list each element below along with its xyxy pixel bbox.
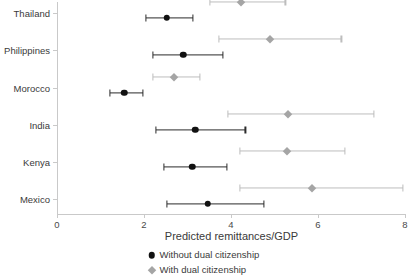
data-point-with-dual-citizenship <box>266 35 274 43</box>
interval-end-cap <box>227 111 228 118</box>
circle-marker-icon <box>144 248 160 261</box>
category-tick-mark <box>53 13 57 14</box>
dot-whisker-chart: 02468 ThailandPhilippinesMoroccoIndiaKen… <box>0 0 415 278</box>
data-point-without-dual-citizenship <box>163 15 170 22</box>
data-point-without-dual-citizenship <box>192 127 199 134</box>
legend-label: Without dual citizenship <box>160 249 260 260</box>
confidence-interval-bar <box>167 203 264 204</box>
interval-end-cap <box>245 126 246 133</box>
confidence-interval-bar <box>219 38 342 39</box>
legend-item-with-dual-citizenship: With dual citizenship <box>144 263 272 276</box>
category-label-philippines: Philippines <box>0 45 50 56</box>
data-point-with-dual-citizenship <box>170 73 178 81</box>
category-tick-mark <box>53 88 57 89</box>
data-point-without-dual-citizenship <box>204 201 211 208</box>
interval-end-cap <box>156 126 157 133</box>
data-point-with-dual-citizenship <box>237 0 245 6</box>
confidence-interval-bar <box>228 113 374 114</box>
data-point-without-dual-citizenship <box>189 164 196 171</box>
interval-end-cap <box>285 0 286 6</box>
legend-label: With dual citizenship <box>160 264 247 275</box>
interval-end-cap <box>200 74 201 81</box>
data-point-with-dual-citizenship <box>283 147 291 155</box>
legend-item-without-dual-citizenship: Without dual citizenship <box>144 248 272 261</box>
x-tick-mark <box>318 214 319 218</box>
interval-end-cap <box>240 148 241 155</box>
interval-end-cap <box>166 200 167 207</box>
confidence-interval-bar <box>240 150 344 151</box>
interval-end-cap <box>226 163 227 170</box>
y-axis-line <box>57 2 58 214</box>
x-tick-mark <box>231 214 232 218</box>
category-tick-mark <box>53 199 57 200</box>
interval-end-cap <box>222 51 223 58</box>
x-tick-mark <box>144 214 145 218</box>
interval-end-cap <box>402 185 403 192</box>
interval-end-cap <box>218 36 219 43</box>
x-axis-title: Predicted remittances/GDP <box>57 230 406 242</box>
confidence-interval-bar <box>156 129 245 130</box>
interval-end-cap <box>341 36 342 43</box>
diamond-marker-icon <box>144 263 160 276</box>
x-tick-label: 6 <box>315 219 320 230</box>
interval-end-cap <box>163 163 164 170</box>
category-label-mexico: Mexico <box>0 194 50 205</box>
confidence-interval-bar <box>210 1 286 2</box>
interval-end-cap <box>193 14 194 21</box>
x-tick-mark <box>405 214 406 218</box>
data-point-without-dual-citizenship <box>121 90 128 97</box>
confidence-interval-bar <box>240 187 403 188</box>
category-label-thailand: Thailand <box>0 8 50 19</box>
interval-end-cap <box>143 89 144 96</box>
interval-end-cap <box>344 148 345 155</box>
x-tick-label: 2 <box>141 219 146 230</box>
interval-end-cap <box>153 74 154 81</box>
chart-legend: Without dual citizenship With dual citiz… <box>0 248 415 276</box>
interval-end-cap <box>109 89 110 96</box>
category-label-india: India <box>0 120 50 131</box>
category-tick-mark <box>53 125 57 126</box>
interval-end-cap <box>146 14 147 21</box>
data-point-with-dual-citizenship <box>308 184 316 192</box>
interval-end-cap <box>209 0 210 6</box>
category-label-morocco: Morocco <box>0 83 50 94</box>
confidence-interval-bar <box>153 54 223 55</box>
interval-end-cap <box>263 200 264 207</box>
data-point-without-dual-citizenship <box>180 52 187 59</box>
x-tick-label: 8 <box>402 219 407 230</box>
x-tick-mark <box>57 214 58 218</box>
x-tick-label: 0 <box>54 219 59 230</box>
category-tick-mark <box>53 162 57 163</box>
interval-end-cap <box>374 111 375 118</box>
interval-end-cap <box>153 51 154 58</box>
interval-end-cap <box>240 185 241 192</box>
category-label-kenya: Kenya <box>0 157 50 168</box>
category-tick-mark <box>53 50 57 51</box>
data-point-with-dual-citizenship <box>284 110 292 118</box>
x-tick-label: 4 <box>228 219 233 230</box>
